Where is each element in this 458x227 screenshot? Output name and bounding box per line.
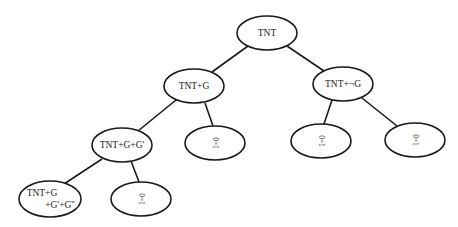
node-label: TNT+¬G [325, 79, 361, 89]
edge-notg-leaf-left [324, 100, 332, 124]
edge-root-g [212, 46, 248, 72]
edge-g-gg [138, 100, 176, 131]
node-tnt-g-g1: TNT+G+G' [92, 128, 152, 162]
edge-gg-ggg [64, 159, 102, 184]
node-leaf-contradiction: 0=1 [385, 123, 445, 157]
contradiction-symbol: 0=1 [211, 137, 220, 149]
edge-g-leaf [205, 103, 213, 126]
node-label: TNT+G+G' [100, 140, 145, 150]
contradiction-symbol: 0=1 [317, 135, 326, 147]
node-tnt-g: TNT+G [164, 69, 224, 103]
contradiction-symbol: 0=1 [137, 193, 146, 205]
node-leaf-contradiction: 0=1 [111, 182, 171, 216]
node-tnt-not-g: TNT+¬G [313, 67, 373, 101]
edge-gg-leaf [131, 161, 139, 182]
node-label: TNT+G [179, 81, 210, 91]
contradiction-symbol: 0=1 [411, 134, 420, 146]
node-leaf-contradiction: 0=1 [291, 124, 351, 158]
node-label-line2: +G'+G'' [45, 200, 75, 210]
node-label-line1: TNT+G [27, 188, 58, 198]
node-leaf-contradiction: 0=1 [185, 126, 245, 160]
edge-notg-leaf-right [362, 98, 397, 126]
tree-diagram: TNT TNT+G TNT+¬G TNT+G+G' 0=1 0=1 0=1 TN… [0, 0, 458, 227]
edge-root-notg [287, 46, 324, 71]
node-label: TNT [258, 28, 277, 38]
node-tnt: TNT [237, 16, 297, 50]
node-tnt-g-g1-g2: TNT+G +G'+G'' [19, 181, 81, 217]
